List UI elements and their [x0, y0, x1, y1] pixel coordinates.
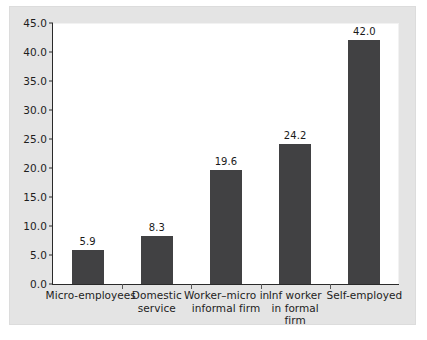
bar-value-label: 24.2: [284, 130, 307, 141]
bar-value-label: 8.3: [149, 222, 165, 233]
bar[interactable]: [141, 236, 173, 284]
bar[interactable]: [210, 170, 242, 284]
figure-panel: 0.05.010.015.020.025.030.035.040.045.0 5…: [9, 6, 416, 325]
figure-root: 0.05.010.015.020.025.030.035.040.045.0 5…: [0, 0, 427, 340]
x-axis-tick-mark: [330, 284, 331, 289]
x-axis-category-label-line: in formal: [253, 302, 337, 315]
bar-value-label: 19.6: [215, 156, 238, 167]
x-axis-tick-mark: [191, 284, 192, 289]
x-axis-category-label-line: firm: [253, 314, 337, 327]
x-axis-tick-mark: [122, 284, 123, 289]
bar[interactable]: [279, 144, 311, 284]
bar-value-label: 5.9: [79, 236, 95, 247]
x-axis-category-label-line: Self-employed: [322, 289, 406, 302]
x-axis-tick-mark: [261, 284, 262, 289]
x-axis-category-label: Self-employed: [322, 289, 406, 302]
bar[interactable]: [72, 250, 104, 284]
bar-group: 42.0Self-employed: [330, 23, 399, 284]
bar-value-label: 42.0: [353, 26, 376, 37]
bar[interactable]: [348, 40, 380, 284]
bar-group: 19.6Worker–micro ininformal firm: [191, 23, 260, 284]
bar-group: 24.2Inf workerin formalfirm: [261, 23, 330, 284]
bar-group: 5.9Micro-employees: [53, 23, 122, 284]
plot-area: 0.05.010.015.020.025.030.035.040.045.0 5…: [52, 23, 399, 285]
bar-group: 8.3Domesticservice: [122, 23, 191, 284]
